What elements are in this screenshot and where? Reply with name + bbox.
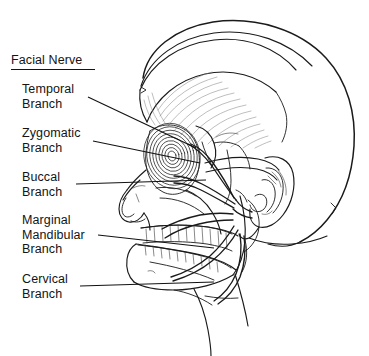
- page-title: Facial Nerve: [11, 53, 95, 67]
- label-marginal-mandibular-branch: Marginal Mandibular Branch: [22, 213, 85, 257]
- title-underline-rule: [11, 69, 95, 70]
- label-buccal-branch: Buccal Branch: [22, 170, 62, 199]
- facial-nerve-title: Facial Nerve: [11, 53, 95, 70]
- label-cervical-branch: Cervical Branch: [22, 272, 68, 301]
- label-temporal-branch: Temporal Branch: [22, 82, 74, 111]
- facial-nerve-diagram: Facial Nerve Temporal Branch Zygomatic B…: [0, 0, 369, 356]
- label-zygomatic-branch: Zygomatic Branch: [22, 126, 81, 155]
- label-layer: Facial Nerve Temporal Branch Zygomatic B…: [0, 0, 369, 356]
